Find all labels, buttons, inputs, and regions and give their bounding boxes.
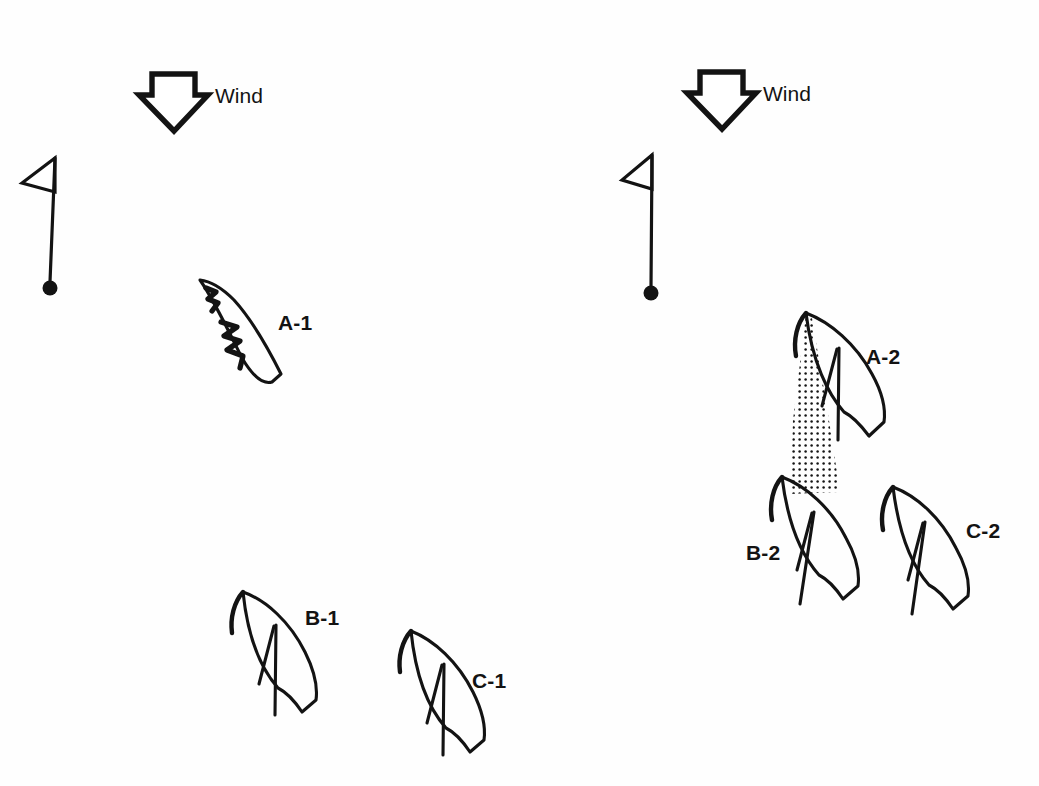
boat-label-A-2: A-2 [866, 345, 900, 368]
boat-label-C-2: C-2 [966, 519, 1000, 542]
diagram-canvas: Wind A-1 B-1 [0, 0, 1039, 786]
boat-label-A-1: A-1 [278, 311, 313, 334]
wind-label: Wind [215, 84, 263, 107]
buoy-icon [43, 281, 58, 296]
wind-label-right: Wind [763, 82, 811, 105]
buoy-icon-right [644, 286, 659, 301]
sailing-diagram-svg: Wind A-1 B-1 [0, 0, 1039, 786]
page-background [0, 0, 1039, 786]
boat-label-C-1: C-1 [472, 669, 507, 692]
boat-label-B-1: B-1 [305, 606, 340, 629]
boat-label-B-2: B-2 [746, 541, 780, 564]
